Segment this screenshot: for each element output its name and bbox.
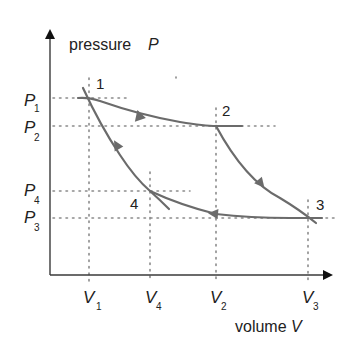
v1-main: V (83, 288, 96, 307)
process-2-3 (216, 126, 316, 223)
v2-sub: 2 (221, 301, 227, 312)
v1-sub: 1 (96, 301, 102, 312)
y-axis-label-text: pressure (69, 36, 131, 53)
guide-lines (53, 77, 336, 282)
x-axis-label: volume V (235, 318, 303, 335)
p4-sub: 4 (34, 195, 40, 206)
v3-sub: 3 (313, 301, 319, 312)
axes (50, 34, 328, 275)
arrow-4-1-icon (110, 138, 124, 152)
p3-sub: 3 (34, 222, 40, 233)
y-axis-label: pressure P (69, 36, 159, 53)
x-axis-symbol: V (291, 318, 303, 335)
point-1-label: 1 (96, 75, 104, 92)
point-4-label: 4 (130, 195, 138, 212)
y-axis-symbol: P (148, 36, 159, 53)
v4-sub: 4 (156, 301, 162, 312)
p2-sub: 2 (34, 132, 40, 143)
x-axis-label-text: volume (235, 318, 287, 335)
point-labels: 1 2 3 4 (96, 75, 324, 213)
pressure-ticks: P 1 P 2 P 4 P 3 (24, 91, 40, 233)
cycle-curves (78, 88, 322, 223)
process-3-4 (150, 191, 322, 218)
pv-diagram: pressure P volume V 1 2 3 4 P 1 P 2 P 4 … (0, 0, 357, 357)
p1-sub: 1 (34, 103, 40, 114)
volume-ticks: V 1 V 4 V 2 V 3 (83, 288, 319, 312)
point-3-label: 3 (316, 196, 324, 213)
diagram-canvas: pressure P volume V 1 2 3 4 P 1 P 2 P 4 … (0, 0, 357, 357)
process-1-2 (78, 98, 242, 126)
point-2-label: 2 (222, 102, 230, 119)
